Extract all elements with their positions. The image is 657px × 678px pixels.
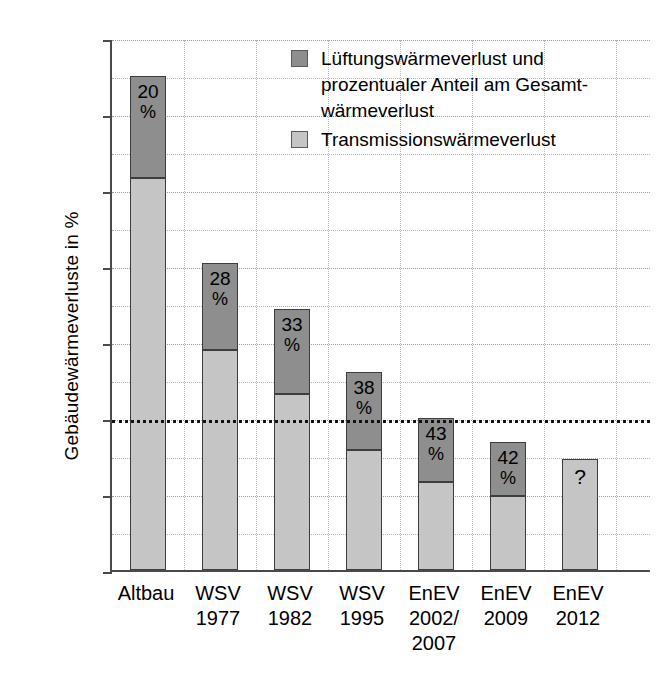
gridline-vertical xyxy=(256,40,257,570)
bar-enev-2009[interactable]: 42% xyxy=(490,442,526,570)
bar-value-number: 43 xyxy=(419,423,453,444)
bar-wsv-1977[interactable]: 28% xyxy=(202,263,238,570)
y-axis-tick-mark xyxy=(103,496,112,498)
reference-line-100-percent xyxy=(112,420,650,423)
bar-wsv-1982[interactable]: 33% xyxy=(274,309,310,570)
bar-segment-transmissionswaermeverlust[interactable] xyxy=(130,178,166,570)
legend-swatch-light-icon xyxy=(291,131,308,148)
gridline-horizontal xyxy=(112,192,650,193)
legend-label-transmissionswaermeverlust: Transmissionswärmeverlust xyxy=(321,127,556,153)
bar-chart: Gebäudewärmeverluste in % % 20%28%33%38%… xyxy=(0,0,657,678)
legend-item-lueftungswaermeverlust: Lüftungswärmeverlust und prozentualer An… xyxy=(291,46,641,124)
bar-value-percent-sign: % xyxy=(203,289,237,310)
bar-segment-lueftungswaermeverlust[interactable]: 20% xyxy=(130,76,166,178)
bar-value-label: ? xyxy=(563,466,597,487)
y-axis-tick-mark xyxy=(103,268,112,270)
gridline-horizontal xyxy=(112,40,650,41)
y-axis-tick-mark xyxy=(103,344,112,346)
bar-segment-lueftungswaermeverlust[interactable]: 33% xyxy=(274,309,310,394)
legend-swatch-dark-icon xyxy=(291,50,308,67)
legend-label-lueftungswaermeverlust: Lüftungswärmeverlust und prozentualer An… xyxy=(321,46,588,124)
gridline-horizontal xyxy=(112,268,650,269)
gridline-horizontal xyxy=(112,306,650,307)
x-axis-label-line: 2007 xyxy=(379,631,489,656)
y-axis-tick-mark xyxy=(103,40,112,42)
bar-value-number: 20 xyxy=(131,81,165,102)
y-axis-tick-mark xyxy=(103,116,112,118)
bar-value-label: 38% xyxy=(347,377,381,419)
bar-wsv-1995[interactable]: 38% xyxy=(346,372,382,570)
bar-segment-transmissionswaermeverlust[interactable]: ? xyxy=(562,459,598,570)
bar-enev-2012[interactable]: ? xyxy=(562,459,598,570)
y-axis-tick-mark xyxy=(103,192,112,194)
bar-value-percent-sign: % xyxy=(131,102,165,123)
bar-value-number: 33 xyxy=(275,314,309,335)
x-axis-label-line: 2012 xyxy=(523,606,633,631)
bar-segment-lueftungswaermeverlust[interactable]: 43% xyxy=(418,418,454,482)
bar-value-label: 42% xyxy=(491,447,525,489)
y-axis-tick-mark xyxy=(103,420,112,422)
bar-segment-lueftungswaermeverlust[interactable]: 28% xyxy=(202,263,238,350)
bar-segment-lueftungswaermeverlust[interactable]: 38% xyxy=(346,372,382,450)
bar-value-percent-sign: % xyxy=(419,444,453,465)
x-axis-label-line: EnEV xyxy=(523,581,633,606)
x-axis-label: EnEV2012 xyxy=(523,581,633,631)
bar-enev-2002[interactable]: 43% xyxy=(418,418,454,570)
bar-altbau[interactable]: 20% xyxy=(130,76,166,570)
legend: Lüftungswärmeverlust und prozentualer An… xyxy=(291,46,641,156)
y-axis-title: Gebäudewärmeverluste in % xyxy=(61,141,83,531)
bar-segment-transmissionswaermeverlust[interactable] xyxy=(418,482,454,570)
gridline-horizontal xyxy=(112,344,650,345)
bar-value-number: 38 xyxy=(347,377,381,398)
gridline-horizontal xyxy=(112,230,650,231)
bar-value-number: 42 xyxy=(491,447,525,468)
bar-value-percent-sign: % xyxy=(347,398,381,419)
gridline-vertical xyxy=(184,40,185,570)
bar-segment-transmissionswaermeverlust[interactable] xyxy=(346,450,382,570)
bar-segment-transmissionswaermeverlust[interactable] xyxy=(490,496,526,570)
y-axis-tick-mark xyxy=(103,572,112,574)
bar-value-percent-sign: % xyxy=(275,335,309,356)
legend-item-transmissionswaermeverlust: Transmissionswärmeverlust xyxy=(291,127,641,153)
bar-value-label: 20% xyxy=(131,81,165,123)
bar-value-number: 28 xyxy=(203,268,237,289)
bar-segment-transmissionswaermeverlust[interactable] xyxy=(202,350,238,570)
bar-value-percent-sign: % xyxy=(491,468,525,489)
bar-segment-lueftungswaermeverlust[interactable]: 42% xyxy=(490,442,526,495)
bar-value-label: 28% xyxy=(203,268,237,310)
bar-value-label: 33% xyxy=(275,314,309,356)
bar-value-label: 43% xyxy=(419,423,453,465)
